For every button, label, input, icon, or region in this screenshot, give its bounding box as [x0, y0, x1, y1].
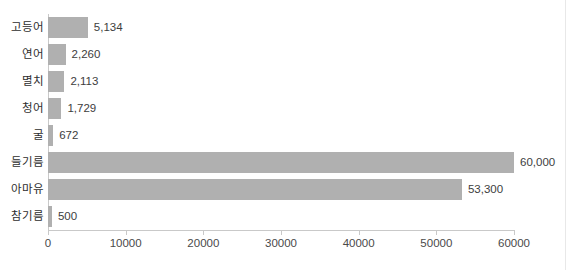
x-tick-label: 30000 — [265, 237, 297, 249]
x-tick-label: 50000 — [420, 237, 452, 249]
x-tick-mark — [514, 230, 515, 235]
bar — [48, 71, 64, 92]
category-label: 연어 — [0, 41, 44, 68]
category-label: 멸치 — [0, 68, 44, 95]
bar — [48, 152, 514, 173]
x-tick-mark — [436, 230, 437, 235]
bar-value-label: 1,729 — [61, 98, 96, 119]
bar — [48, 179, 462, 200]
bar — [48, 17, 88, 38]
x-tick-mark — [48, 230, 49, 235]
bar-value-label: 53,300 — [462, 179, 503, 200]
category-label: 고등어 — [0, 14, 44, 41]
bar-value-label: 2,113 — [64, 71, 98, 92]
bar-value-label: 5,134 — [88, 17, 123, 38]
x-tick-label: 10000 — [110, 237, 142, 249]
category-label: 청어 — [0, 95, 44, 122]
category-label: 굴 — [0, 122, 44, 149]
bar-value-label: 2,260 — [66, 44, 101, 65]
bar-row: 1,729 — [48, 95, 514, 122]
x-tick-mark — [281, 230, 282, 235]
x-tick-label: 60000 — [498, 237, 530, 249]
bar-value-label: 500 — [52, 206, 77, 227]
x-tick-mark — [203, 230, 204, 235]
x-tick-label: 20000 — [187, 237, 219, 249]
category-label: 아마유 — [0, 176, 44, 203]
plot-area: 5,1342,2602,1131,72967260,00053,300500 — [48, 14, 514, 230]
category-label: 들기름 — [0, 149, 44, 176]
x-tick-label: 40000 — [343, 237, 375, 249]
bar-row: 53,300 — [48, 176, 514, 203]
x-tick-mark — [359, 230, 360, 235]
bar-row: 500 — [48, 203, 514, 230]
bar — [48, 98, 61, 119]
x-tick-label: 0 — [45, 237, 51, 249]
x-tick-mark — [126, 230, 127, 235]
bar-row: 60,000 — [48, 149, 514, 176]
x-axis-ticks: 0100002000030000400005000060000 — [48, 230, 514, 266]
bar-chart: 고등어연어멸치청어굴들기름아마유참기름 5,1342,2602,1131,729… — [0, 0, 566, 270]
category-axis-labels: 고등어연어멸치청어굴들기름아마유참기름 — [0, 14, 44, 230]
bar-row: 2,260 — [48, 41, 514, 68]
bar-row: 5,134 — [48, 14, 514, 41]
bar — [48, 44, 66, 65]
bar-value-label: 672 — [53, 125, 78, 146]
category-label: 참기름 — [0, 203, 44, 230]
bar-value-label: 60,000 — [514, 152, 555, 173]
bar-row: 672 — [48, 122, 514, 149]
bar-row: 2,113 — [48, 68, 514, 95]
